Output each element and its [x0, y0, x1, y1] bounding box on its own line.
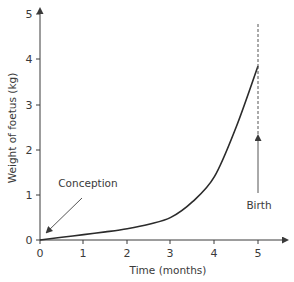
y-tick-label-0: 0 [26, 234, 33, 247]
conception-annotation: Conception [47, 177, 118, 232]
conception-arrow [47, 198, 82, 232]
growth-curve [40, 66, 258, 240]
birth-annotation: Birth [246, 24, 271, 211]
x-axis: 0 1 2 3 4 5 Time (months) [37, 240, 288, 276]
x-ticks [40, 240, 258, 244]
y-tick-label-3: 3 [26, 99, 33, 112]
x-tick-label-2: 2 [124, 247, 131, 260]
y-tick-label-2: 2 [26, 144, 33, 157]
y-tick-label-5: 5 [26, 8, 33, 21]
y-ticks [36, 14, 40, 240]
conception-label: Conception [58, 177, 117, 189]
y-tick-label-1: 1 [26, 189, 33, 202]
y-tick-label-4: 4 [26, 53, 33, 66]
y-axis-label: Weight of foetus (kg) [6, 73, 18, 183]
x-tick-label-1: 1 [80, 247, 87, 260]
y-axis: 0 1 2 3 4 5 Weight of foetus (kg) [6, 8, 40, 247]
foetal-weight-chart: 0 1 2 3 4 5 Weight of foetus (kg) 0 1 2 … [0, 0, 294, 282]
x-axis-label: Time (months) [129, 264, 207, 276]
x-tick-label-4: 4 [211, 247, 218, 260]
x-tick-label-5: 5 [255, 247, 262, 260]
x-tick-label-0: 0 [37, 247, 44, 260]
birth-label: Birth [246, 199, 271, 211]
x-tick-label-3: 3 [167, 247, 174, 260]
